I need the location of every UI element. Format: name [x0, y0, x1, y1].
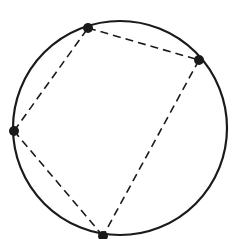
vertex-point-top [83, 23, 93, 33]
circumscribed-circle [13, 21, 227, 235]
vertex-point-left [9, 126, 19, 136]
vertex-point-right [194, 55, 204, 65]
cyclic-quadrilateral-diagram [0, 0, 238, 239]
dashed-edge-top-right [88, 28, 199, 60]
quadrilateral-edges [14, 28, 199, 236]
dashed-edge-right-bottom [103, 60, 199, 236]
vertex-points [9, 23, 204, 239]
